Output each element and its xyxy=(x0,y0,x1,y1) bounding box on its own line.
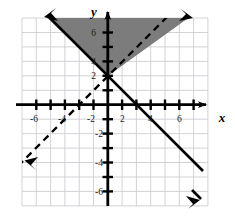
x-tick--2: -2 xyxy=(87,114,95,124)
y-tick--2: -2 xyxy=(95,129,103,139)
graph-figure: -6 -4 -2 2 4 6 6 4 2 -2 -4 -6 y x xyxy=(0,0,235,222)
x-axis-label: x xyxy=(218,110,226,125)
y-tick-4: 4 xyxy=(91,57,96,67)
x-tick--4: -4 xyxy=(58,114,66,124)
coordinate-plane-svg: -6 -4 -2 2 4 6 6 4 2 -2 -4 -6 y x xyxy=(0,0,235,222)
y-tick-6: 6 xyxy=(91,28,96,38)
y-tick--4: -4 xyxy=(95,158,103,168)
x-tick-2: 2 xyxy=(120,114,125,124)
x-tick-6: 6 xyxy=(177,114,182,124)
y-axis-label: y xyxy=(89,4,97,19)
x-tick--6: -6 xyxy=(30,114,38,124)
x-tick-4: 4 xyxy=(148,114,153,124)
y-tick-2: 2 xyxy=(91,71,96,81)
y-tick--6: -6 xyxy=(95,187,103,197)
